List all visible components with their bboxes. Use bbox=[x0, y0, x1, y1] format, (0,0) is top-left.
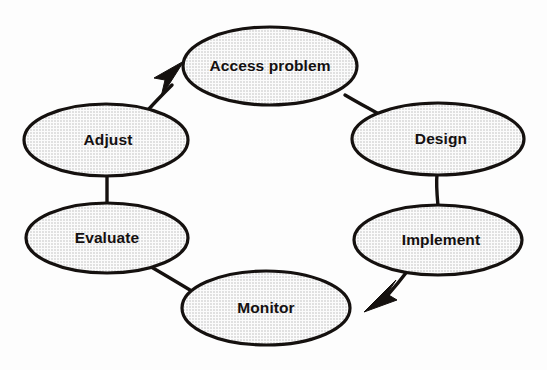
edge-design-to-implement bbox=[437, 174, 438, 206]
node-layer: Access problem Design Implement Monitor … bbox=[24, 27, 524, 345]
node-label-access-problem: Access problem bbox=[209, 57, 330, 74]
node-label-adjust: Adjust bbox=[84, 131, 133, 148]
arrow-head-to-access-problem bbox=[154, 61, 184, 97]
cycle-diagram: Access problem Design Implement Monitor … bbox=[0, 0, 547, 370]
node-adjust[interactable]: Adjust bbox=[24, 104, 188, 176]
node-implement[interactable]: Implement bbox=[354, 205, 522, 275]
node-evaluate[interactable]: Evaluate bbox=[26, 203, 188, 273]
node-access-problem[interactable]: Access problem bbox=[183, 27, 357, 105]
node-monitor[interactable]: Monitor bbox=[182, 271, 350, 345]
node-label-design: Design bbox=[415, 130, 467, 147]
diagram-canvas: Access problem Design Implement Monitor … bbox=[0, 0, 547, 370]
edge-adjust-to-access-problem bbox=[148, 85, 172, 110]
node-label-monitor: Monitor bbox=[237, 299, 295, 316]
node-label-implement: Implement bbox=[402, 231, 480, 248]
arrow-head-to-monitor bbox=[364, 280, 397, 312]
node-label-evaluate: Evaluate bbox=[75, 229, 140, 246]
node-design[interactable]: Design bbox=[352, 103, 524, 175]
